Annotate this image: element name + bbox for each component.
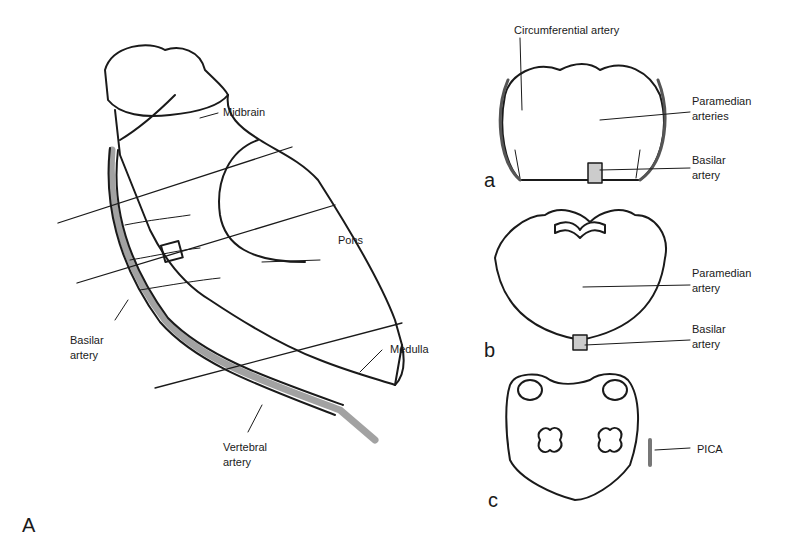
label-vertebral-artery-1: Vertebral — [223, 441, 267, 454]
label-medulla: Medulla — [390, 343, 429, 356]
label-paramedian-artery-2: artery — [692, 282, 720, 295]
cross-section-a — [500, 64, 665, 183]
panel-letter-c: c — [488, 490, 498, 510]
label-basilar-artery-a-2: artery — [70, 349, 98, 362]
label-circumferential-artery: Circumferential artery — [514, 24, 619, 37]
label-pons: Pons — [338, 234, 363, 247]
label-basilar-artery-c-1: Basilar — [692, 323, 726, 336]
label-midbrain: Midbrain — [223, 106, 265, 119]
cross-section-c — [506, 374, 650, 500]
label-paramedian-arteries-2: arteries — [692, 110, 729, 123]
label-paramedian-artery-1: Paramedian — [692, 267, 751, 280]
label-basilar-artery-c-2: artery — [692, 338, 720, 351]
label-basilar-artery-b-1: Basilar — [692, 154, 726, 167]
label-pica: PICA — [697, 443, 723, 456]
brainstem-diagram — [0, 0, 809, 558]
label-basilar-artery-a-1: Basilar — [70, 334, 104, 347]
panel-letter-a: a — [484, 170, 495, 190]
label-basilar-artery-b-2: artery — [692, 169, 720, 182]
label-vertebral-artery-2: artery — [223, 456, 251, 469]
panel-letter-b: b — [484, 340, 495, 360]
panel-letter-A: A — [22, 515, 35, 535]
label-paramedian-arteries-1: Paramedian — [692, 95, 751, 108]
cross-section-b — [495, 210, 666, 350]
